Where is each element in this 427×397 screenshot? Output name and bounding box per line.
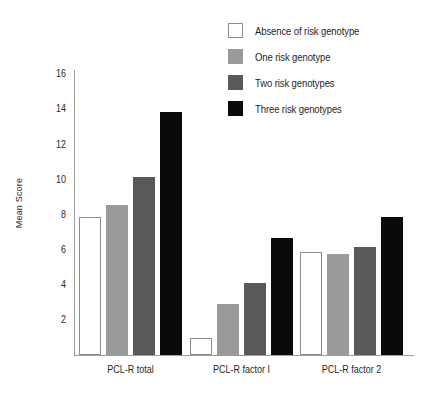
y-axis-tick-label: 2 (42, 314, 66, 325)
y-axis-tick-label: 14 (42, 104, 66, 115)
y-axis-title-text: Mean Score (14, 178, 24, 229)
y-axis-tick-label: 4 (42, 279, 66, 290)
y-axis-tick-label: 8 (42, 209, 66, 220)
bar (160, 112, 182, 355)
y-axis-line (74, 70, 75, 356)
bar (300, 252, 322, 355)
bar (133, 177, 155, 356)
bar (327, 254, 349, 356)
bar-chart-plot-area: Mean Score 246810121416 PCL-R totalPCL-R… (0, 0, 427, 397)
bar (217, 304, 239, 355)
x-axis-group-label: PCL-R factor 2 (280, 363, 423, 376)
bar (79, 217, 101, 355)
y-axis-title: Mean Score (12, 148, 26, 258)
y-axis-tick-label: 6 (42, 244, 66, 255)
bar (244, 283, 266, 355)
y-axis-tick-label: 12 (42, 139, 66, 150)
y-axis-tick-label: 10 (42, 174, 66, 185)
y-axis-tick-label: 16 (42, 69, 66, 80)
y-axis-tick-labels: 246810121416 (42, 0, 66, 397)
bar (271, 238, 293, 355)
bar (106, 205, 128, 356)
x-axis-line (74, 355, 414, 356)
bar (190, 338, 212, 356)
bar (381, 217, 403, 355)
bar (354, 247, 376, 356)
